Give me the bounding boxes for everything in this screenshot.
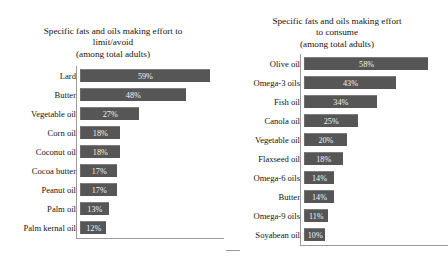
plot-area-consume: Olive oil58%Omega-3 oils43%Fish oil34%Ca… bbox=[226, 54, 448, 244]
bar-value-label: 20% bbox=[318, 136, 333, 145]
category-label: Butter bbox=[0, 90, 80, 100]
bar-track: 10% bbox=[304, 225, 448, 244]
bar-track: 18% bbox=[80, 142, 226, 161]
bar-value-label: 10% bbox=[308, 231, 323, 240]
bar-row: Canola oil25% bbox=[226, 111, 448, 130]
bar-track: 59% bbox=[80, 66, 226, 85]
bar-value-label: 43% bbox=[343, 79, 358, 88]
title-line-3: (among total adults) bbox=[0, 49, 226, 60]
bar-track: 18% bbox=[304, 149, 448, 168]
bar: 14% bbox=[304, 171, 334, 184]
chart-title-limit-avoid: Specific fats and oils making effort to … bbox=[0, 26, 226, 60]
category-label: Palm oil bbox=[0, 204, 80, 214]
category-label: Omega-6 oils bbox=[226, 173, 304, 183]
category-label: Vegetable oil bbox=[226, 135, 304, 145]
bar-value-label: 59% bbox=[138, 72, 153, 81]
bar-value-label: 17% bbox=[92, 167, 107, 176]
bar: 58% bbox=[304, 57, 428, 70]
chart-panel-consume: Specific fats and oils making effort to … bbox=[226, 0, 448, 266]
bar-row: Palm oil13% bbox=[0, 199, 226, 218]
bar: 25% bbox=[304, 114, 358, 127]
title-line-2: limit/avoid bbox=[0, 37, 226, 48]
bar-track: 58% bbox=[304, 54, 448, 73]
chart-title-consume: Specific fats and oils making effort to … bbox=[226, 16, 448, 50]
bar-row: Vegetable oil20% bbox=[226, 130, 448, 149]
category-label: Vegetable oil bbox=[0, 109, 80, 119]
bar: 20% bbox=[304, 133, 347, 146]
x-axis-baseline bbox=[76, 238, 224, 239]
bar-row: Corn oil18% bbox=[0, 123, 226, 142]
bar-value-label: 34% bbox=[333, 98, 348, 107]
bar-row: Coconut oil18% bbox=[0, 142, 226, 161]
bar: 34% bbox=[304, 95, 377, 108]
bar-row: Cocoa butter17% bbox=[0, 161, 226, 180]
bar-value-label: 18% bbox=[316, 155, 331, 164]
category-label: Olive oil bbox=[226, 59, 304, 69]
bar-track: 17% bbox=[80, 180, 226, 199]
category-label: Coconut oil bbox=[0, 147, 80, 157]
bar: 18% bbox=[80, 126, 120, 139]
category-label: Corn oil bbox=[0, 128, 80, 138]
bar-track: 25% bbox=[304, 111, 448, 130]
category-label: Cocoa butter bbox=[0, 166, 80, 176]
bar-value-label: 18% bbox=[93, 148, 108, 157]
bar-track: 13% bbox=[80, 199, 226, 218]
title-line-2: to consume bbox=[226, 27, 448, 38]
bar-row: Omega-6 oils14% bbox=[226, 168, 448, 187]
title-line-1: Specific fats and oils making effort to bbox=[0, 26, 226, 37]
bar-track: 12% bbox=[80, 218, 226, 237]
bar-value-label: 17% bbox=[92, 186, 107, 195]
bar-value-label: 58% bbox=[359, 60, 374, 69]
x-axis-baseline bbox=[300, 245, 448, 246]
bar-row: Palm kernal oil12% bbox=[0, 218, 226, 237]
bar: 18% bbox=[304, 152, 343, 165]
bar: 13% bbox=[80, 202, 109, 215]
bar-value-label: 14% bbox=[312, 193, 327, 202]
category-label: Soyabean oil bbox=[226, 230, 304, 240]
category-label: Flaxseed oil bbox=[226, 154, 304, 164]
bar-value-label: 12% bbox=[86, 224, 101, 233]
bar-track: 43% bbox=[304, 73, 448, 92]
bar-row: Olive oil58% bbox=[226, 54, 448, 73]
bar-value-label: 48% bbox=[126, 91, 141, 100]
bar: 27% bbox=[80, 107, 139, 120]
plot-area-limit-avoid: Lard59%Butter48%Vegetable oil27%Corn oil… bbox=[0, 66, 226, 237]
bar-row: Butter14% bbox=[226, 187, 448, 206]
bar-row: Lard59% bbox=[0, 66, 226, 85]
panel-edge-mark bbox=[226, 250, 240, 251]
category-label: Peanut oil bbox=[0, 185, 80, 195]
bar: 18% bbox=[80, 145, 120, 158]
bar-value-label: 13% bbox=[87, 205, 102, 214]
bar-track: 14% bbox=[304, 187, 448, 206]
bar-track: 18% bbox=[80, 123, 226, 142]
bar: 17% bbox=[80, 164, 117, 177]
bar: 59% bbox=[80, 69, 210, 82]
bar-value-label: 27% bbox=[103, 110, 118, 119]
title-line-1: Specific fats and oils making effort bbox=[226, 16, 448, 27]
title-line-3: (among total adults) bbox=[226, 39, 448, 50]
bar-row: Omega-9 oils11% bbox=[226, 206, 448, 225]
category-label: Omega-9 oils bbox=[226, 211, 304, 221]
category-label: Omega-3 oils bbox=[226, 78, 304, 88]
bar-row: Butter48% bbox=[0, 85, 226, 104]
bar-value-label: 18% bbox=[93, 129, 108, 138]
chart-panel-limit-avoid: Specific fats and oils making effort to … bbox=[0, 0, 226, 266]
bar-row: Flaxseed oil18% bbox=[226, 149, 448, 168]
bar-track: 11% bbox=[304, 206, 448, 225]
bar: 14% bbox=[304, 190, 334, 203]
bar-track: 14% bbox=[304, 168, 448, 187]
bar-row: Peanut oil17% bbox=[0, 180, 226, 199]
bar-value-label: 25% bbox=[324, 117, 339, 126]
bar-track: 27% bbox=[80, 104, 226, 123]
bar: 12% bbox=[80, 221, 106, 234]
bar-track: 34% bbox=[304, 92, 448, 111]
bar: 48% bbox=[80, 88, 186, 101]
chart-canvas: Specific fats and oils making effort to … bbox=[0, 0, 448, 266]
bar-track: 17% bbox=[80, 161, 226, 180]
category-label: Lard bbox=[0, 71, 80, 81]
bar-row: Fish oil34% bbox=[226, 92, 448, 111]
bar-row: Vegetable oil27% bbox=[0, 104, 226, 123]
bar: 11% bbox=[304, 209, 328, 222]
bar: 17% bbox=[80, 183, 117, 196]
category-label: Fish oil bbox=[226, 97, 304, 107]
